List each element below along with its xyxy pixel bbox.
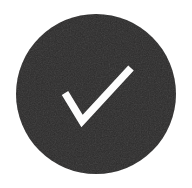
check-circle-icon (0, 0, 192, 188)
icon-canvas: Check mark inside filled circle Success (0, 0, 192, 188)
